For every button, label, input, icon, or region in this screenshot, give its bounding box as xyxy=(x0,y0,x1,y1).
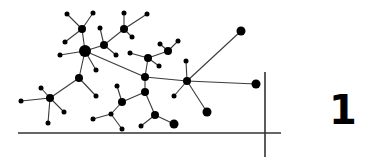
node xyxy=(63,40,68,45)
node xyxy=(120,25,128,33)
node xyxy=(98,26,103,31)
node xyxy=(65,12,70,17)
node xyxy=(141,73,149,81)
node xyxy=(164,47,172,55)
edge xyxy=(145,77,187,81)
edge xyxy=(21,98,50,101)
node xyxy=(100,41,108,49)
node xyxy=(115,84,120,89)
edge xyxy=(187,81,256,84)
node xyxy=(19,99,24,104)
node xyxy=(94,94,99,99)
node xyxy=(172,94,177,99)
node xyxy=(39,86,44,91)
axes xyxy=(18,72,281,157)
node xyxy=(79,45,91,57)
node xyxy=(91,117,96,122)
edge xyxy=(111,114,122,129)
node xyxy=(46,94,54,102)
node xyxy=(94,68,99,73)
node xyxy=(91,11,96,16)
figure-number-label: 1 xyxy=(328,86,358,134)
node xyxy=(58,53,63,58)
node xyxy=(203,108,212,117)
edge xyxy=(187,81,207,112)
node xyxy=(130,35,135,40)
node xyxy=(145,12,150,17)
node xyxy=(141,88,149,96)
node xyxy=(237,27,246,36)
node xyxy=(170,120,179,129)
node xyxy=(183,77,191,85)
edges xyxy=(21,13,256,129)
edge xyxy=(93,114,111,119)
node xyxy=(157,64,162,69)
edge xyxy=(50,78,79,98)
edge xyxy=(124,14,147,29)
node xyxy=(128,51,133,56)
node xyxy=(120,127,125,132)
node xyxy=(78,25,86,33)
node xyxy=(118,98,126,106)
node xyxy=(139,124,144,129)
node xyxy=(122,11,127,16)
node xyxy=(75,74,83,82)
node xyxy=(144,54,152,62)
network-diagram xyxy=(0,0,366,159)
node xyxy=(184,59,189,64)
node xyxy=(158,42,163,47)
node xyxy=(62,110,67,115)
nodes xyxy=(19,11,261,132)
node xyxy=(252,80,261,89)
node xyxy=(176,39,181,44)
edge xyxy=(187,31,241,81)
node xyxy=(151,111,159,119)
node xyxy=(114,53,119,58)
node xyxy=(109,112,114,117)
node xyxy=(46,121,51,126)
